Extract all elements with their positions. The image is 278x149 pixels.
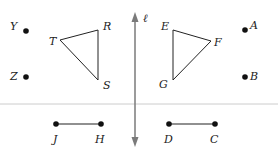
label-Y: Y [10,20,19,33]
reflection-line-l [132,12,139,147]
label-G: G [159,78,168,91]
diagram-canvas: ℓ Y Z T R S E F G A B J H D C [0,0,278,149]
label-F: F [213,36,222,49]
triangle-EFG [173,30,211,80]
label-D: D [163,133,173,146]
label-H: H [94,133,105,146]
point-J [53,121,59,127]
label-T: T [49,35,58,48]
point-Y [23,28,29,34]
label-E: E [160,20,169,33]
reflection-diagram: ℓ Y Z T R S E F G A B J H D C [0,0,278,149]
label-B: B [249,70,258,83]
label-Z: Z [9,70,18,83]
label-J: J [51,133,58,146]
point-C [212,121,218,127]
arrow-up-icon [132,12,139,22]
axis-label-l: ℓ [143,12,148,25]
label-C: C [210,133,219,146]
triangle-TRS [60,30,98,80]
point-D [166,121,172,127]
point-Z [23,74,29,80]
label-A: A [249,19,258,32]
label-R: R [102,20,111,33]
point-A [242,27,248,33]
arrow-down-icon [132,137,139,147]
point-B [242,74,248,80]
point-H [98,121,104,127]
label-S: S [103,79,111,92]
